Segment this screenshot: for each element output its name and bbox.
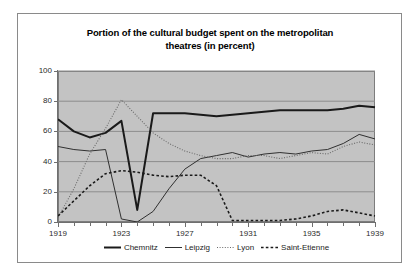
y-tick-mark	[54, 192, 58, 193]
x-tick-mark	[185, 223, 186, 227]
x-tick-mark	[343, 223, 344, 226]
x-tick-label: 1919	[38, 229, 78, 238]
series-line-saint-etienne	[58, 171, 375, 221]
chart-title-line-2: theatres (in percent)	[40, 40, 380, 53]
y-tick-mark	[54, 162, 58, 163]
y-tick-label: 60	[28, 126, 52, 135]
x-tick-mark	[312, 223, 313, 227]
chart-screenshot: Portion of the cultural budget spent on …	[0, 0, 419, 279]
y-tick-mark	[54, 71, 58, 72]
y-tick-label: 20	[28, 187, 52, 196]
legend-item-chemnitz[interactable]: Chemnitz	[104, 243, 158, 252]
x-tick-mark	[280, 223, 281, 226]
x-tick-mark	[201, 223, 202, 226]
x-tick-mark	[217, 223, 218, 226]
x-tick-mark	[169, 223, 170, 226]
legend-label: Saint-Etienne	[281, 243, 329, 252]
x-tick-mark	[90, 223, 91, 226]
legend-swatch-icon	[165, 244, 182, 251]
legend-item-saint-etienne[interactable]: Saint-Etienne	[261, 243, 329, 252]
x-tick-label: 1923	[101, 229, 141, 238]
series-line-leipzig	[58, 134, 375, 222]
series-line-chemnitz	[58, 106, 375, 210]
x-tick-label: 1931	[228, 229, 268, 238]
x-tick-mark	[248, 223, 249, 227]
x-tick-mark	[121, 223, 122, 227]
legend-item-lyon[interactable]: Lyon	[217, 243, 254, 252]
x-tick-mark	[375, 223, 376, 227]
y-tick-label: 100	[28, 66, 52, 75]
y-tick-label: 80	[28, 96, 52, 105]
legend-swatch-icon	[261, 244, 278, 251]
x-tick-mark	[264, 223, 265, 226]
x-tick-mark	[58, 223, 59, 227]
series-line-lyon	[58, 100, 375, 218]
x-tick-mark	[232, 223, 233, 226]
x-tick-mark	[137, 223, 138, 226]
legend-swatch-icon	[217, 244, 234, 251]
chart-title: Portion of the cultural budget spent on …	[40, 27, 380, 52]
plot-area	[58, 71, 375, 222]
x-tick-mark	[359, 223, 360, 226]
chart-legend: ChemnitzLeipzigLyonSaint-Etienne	[58, 243, 375, 252]
x-tick-label: 1935	[292, 229, 332, 238]
legend-label: Leipzig	[185, 243, 210, 252]
y-axis-line	[57, 70, 58, 223]
legend-label: Lyon	[237, 243, 254, 252]
y-tick-label: 40	[28, 157, 52, 166]
legend-swatch-icon	[104, 244, 121, 251]
x-tick-mark	[296, 223, 297, 226]
plot-svg	[58, 71, 375, 222]
x-tick-mark	[106, 223, 107, 226]
legend-item-leipzig[interactable]: Leipzig	[165, 243, 210, 252]
x-tick-label: 1939	[355, 229, 395, 238]
x-tick-mark	[327, 223, 328, 226]
x-tick-label: 1927	[165, 229, 205, 238]
y-tick-label: 0	[28, 217, 52, 226]
y-tick-mark	[54, 131, 58, 132]
x-tick-mark	[74, 223, 75, 226]
chart-title-line-1: Portion of the cultural budget spent on …	[40, 27, 380, 40]
legend-label: Chemnitz	[124, 243, 158, 252]
y-tick-mark	[54, 101, 58, 102]
x-tick-mark	[153, 223, 154, 226]
